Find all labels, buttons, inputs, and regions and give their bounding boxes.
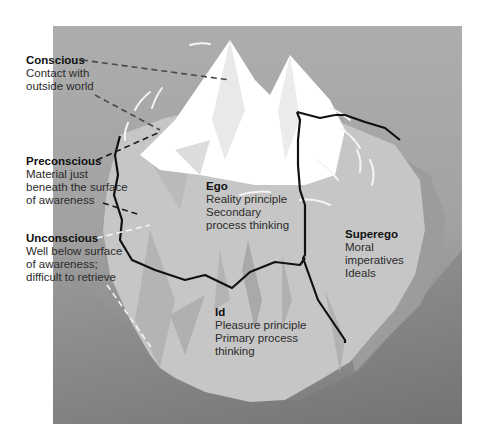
label-preconscious-title: Preconscious: [26, 155, 128, 168]
label-id-title: Id: [215, 306, 306, 319]
label-id: Id Pleasure principle Primary process th…: [215, 306, 306, 358]
label-conscious: Conscious Contact with outside world: [26, 54, 94, 93]
label-ego: Ego Reality principle Secondary process …: [206, 180, 289, 232]
label-conscious-title: Conscious: [26, 54, 94, 67]
iceberg-diagram: Conscious Contact with outside world Pre…: [0, 0, 484, 432]
label-superego-title: Superego: [345, 228, 404, 241]
label-preconscious: Preconscious Material just beneath the s…: [26, 155, 128, 207]
label-superego: Superego Moral imperatives Ideals: [345, 228, 404, 280]
label-unconscious-title: Unconscious: [26, 232, 122, 245]
label-ego-title: Ego: [206, 180, 289, 193]
label-unconscious: Unconscious Well below surface of awaren…: [26, 232, 122, 284]
